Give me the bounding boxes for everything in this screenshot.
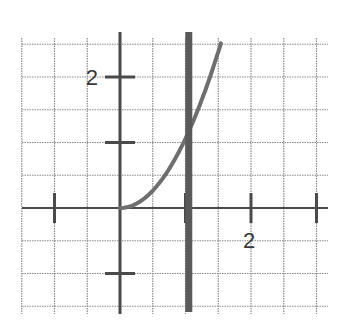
- x-tick-label-2: 2: [243, 228, 255, 253]
- axes: [22, 32, 328, 314]
- graph: 2 2: [0, 0, 364, 325]
- y-tick-label-2: 2: [86, 65, 98, 90]
- grid-lines: [22, 38, 328, 314]
- vertical-line: [185, 32, 192, 312]
- parabola-curve: [120, 43, 221, 208]
